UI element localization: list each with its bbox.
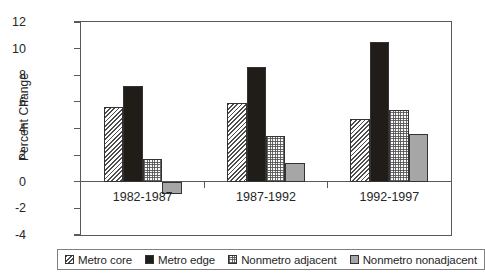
x-axis-tick	[204, 182, 205, 188]
plot-inner: 121086420-2-41982-19871987-19921992-1997	[81, 22, 451, 235]
chart-legend: Metro coreMetro edgeNonmetro adjacentNon…	[57, 249, 485, 270]
bar-nonmetro-nonadjacent-1992-1997	[409, 134, 428, 182]
x-axis-category-label: 1992-1997	[359, 190, 419, 204]
legend-label: Metro core	[78, 254, 132, 266]
bar-metro-core-1987-1992	[227, 103, 246, 182]
y-axis-tick-label: -4	[0, 228, 26, 242]
y-axis-tick	[74, 21, 81, 22]
legend-swatch-metro-edge-icon	[145, 255, 154, 264]
legend-label: Metro edge	[158, 254, 215, 266]
bar-metro-edge-1982-1987	[123, 86, 142, 182]
y-axis-tick	[74, 208, 81, 209]
plot-area: 121086420-2-41982-19871987-19921992-1997	[80, 21, 452, 236]
bar-metro-core-1992-1997	[350, 119, 369, 182]
bar-nonmetro-nonadjacent-1987-1992	[285, 163, 304, 182]
y-axis-tick	[74, 181, 81, 182]
legend-swatch-metro-core-icon	[65, 255, 74, 264]
y-axis-tick	[74, 128, 81, 129]
y-axis-tick-label: 4	[0, 122, 26, 136]
legend-label: Nonmetro nonadjacent	[363, 254, 477, 266]
y-axis-tick	[74, 234, 81, 235]
y-axis-tick-label: 6	[0, 95, 26, 109]
bar-metro-edge-1987-1992	[247, 67, 266, 181]
y-axis-tick	[74, 155, 81, 156]
y-axis-tick-label: 12	[0, 15, 26, 29]
x-axis-category-label: 1987-1992	[236, 190, 296, 204]
y-axis-tick	[74, 75, 81, 76]
legend-entry-metro-edge: Metro edge	[145, 254, 215, 266]
legend-swatch-nonmetro-adjacent-icon	[228, 255, 237, 264]
y-axis-tick-label: -2	[0, 201, 26, 215]
y-axis-tick	[74, 101, 81, 102]
bar-nonmetro-adjacent-1992-1997	[389, 110, 408, 182]
bar-nonmetro-adjacent-1982-1987	[143, 159, 162, 182]
bar-metro-core-1982-1987	[104, 107, 123, 182]
legend-swatch-nonmetro-nonadjacent-icon	[350, 255, 359, 264]
legend-label: Nonmetro adjacent	[241, 254, 336, 266]
legend-entry-nonmetro-adjacent: Nonmetro adjacent	[228, 254, 336, 266]
y-axis-tick-label: 8	[0, 68, 26, 82]
bar-metro-edge-1992-1997	[370, 42, 389, 182]
bar-nonmetro-adjacent-1987-1992	[266, 136, 285, 181]
x-axis-category-label: 1982-1987	[113, 190, 173, 204]
y-axis-tick-label: 10	[0, 42, 26, 56]
legend-entry-nonmetro-nonadjacent: Nonmetro nonadjacent	[350, 254, 477, 266]
y-axis-tick-label: 2	[0, 148, 26, 162]
y-axis-tick	[74, 48, 81, 49]
x-axis-tick	[327, 182, 328, 188]
legend-entry-metro-core: Metro core	[65, 254, 132, 266]
y-axis-tick-label: 0	[0, 175, 26, 189]
